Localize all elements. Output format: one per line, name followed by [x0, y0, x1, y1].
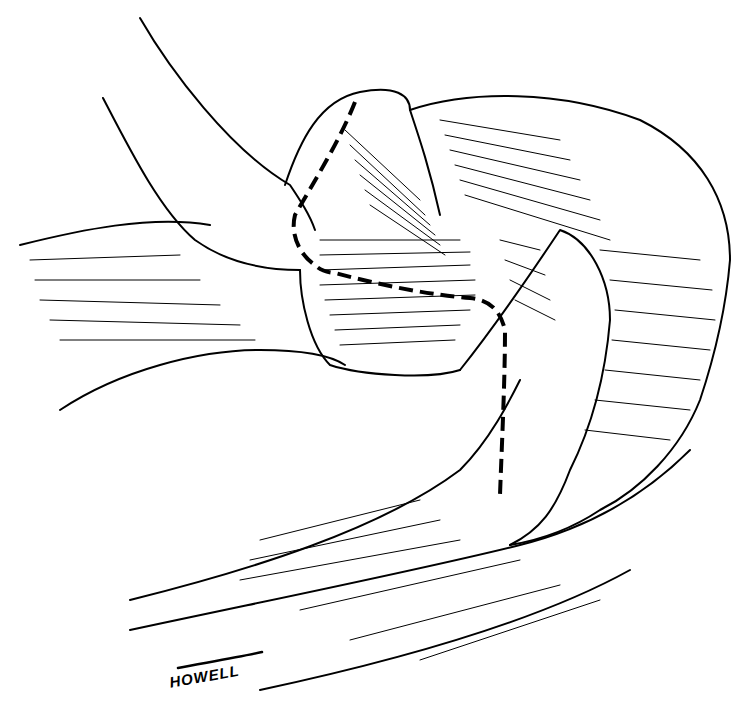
bone-outline-left [103, 98, 300, 270]
bone-outline [140, 18, 315, 230]
lower-sweep-2 [130, 450, 690, 630]
dashed-incision-line [294, 102, 505, 495]
dome-outline [410, 96, 730, 545]
muscle-outline-low [60, 350, 345, 410]
anatomical-illustration [0, 0, 743, 719]
tendon-curve [460, 230, 610, 545]
lower-sweep-3 [260, 570, 630, 690]
lower-sweep-1 [130, 380, 520, 600]
